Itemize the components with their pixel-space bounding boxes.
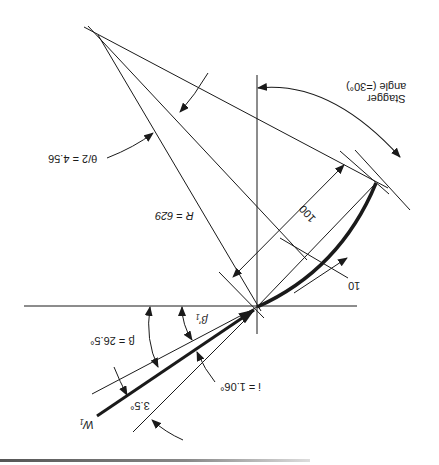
radius-line-mid bbox=[88, 26, 307, 260]
radius-line-te bbox=[84, 27, 388, 188]
deviation-leader-bottom bbox=[152, 420, 183, 440]
beta-angle-arc bbox=[149, 307, 158, 367]
beta-label: β = 26.5° bbox=[90, 335, 135, 347]
chord-extension-te bbox=[340, 151, 389, 194]
velocity-w1-label: W₁ bbox=[80, 419, 94, 431]
half-camber-arc-leader bbox=[180, 73, 208, 112]
half-camber-leader bbox=[107, 133, 153, 158]
stagger-label: Stagger bbox=[367, 93, 406, 105]
bottom-rule bbox=[0, 459, 310, 462]
deviation-angle-label: 3.5° bbox=[130, 400, 150, 412]
stagger-reference-line bbox=[355, 150, 410, 210]
cascade-diagram bbox=[0, 0, 439, 465]
beta-prime-label: β′₁ bbox=[196, 314, 208, 326]
velocity-vector-w1 bbox=[97, 310, 254, 416]
beta-prime-arc bbox=[182, 307, 192, 340]
camber-height-label: 10 bbox=[348, 280, 360, 292]
stagger-angle-label: angle (=30°) bbox=[346, 81, 406, 93]
radius-label: R = 629 bbox=[155, 210, 194, 222]
radius-line-le bbox=[98, 35, 261, 311]
deviation-line bbox=[133, 313, 252, 432]
incidence-leader bbox=[197, 352, 215, 382]
incidence-label: i = 1.06° bbox=[220, 381, 261, 393]
half-camber-angle-label: θ/2 = 4.56 bbox=[48, 153, 97, 165]
